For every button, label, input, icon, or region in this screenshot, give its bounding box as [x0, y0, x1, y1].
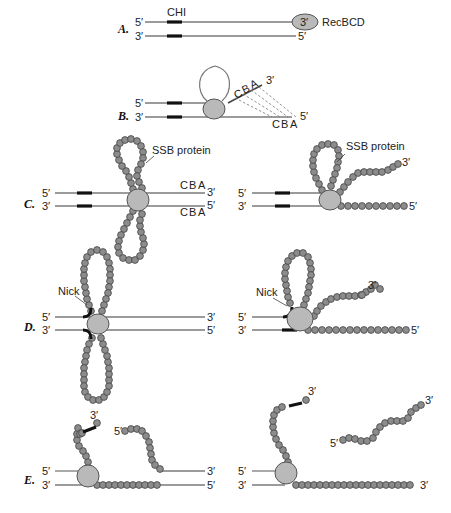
strand-end-label: 5′	[411, 324, 419, 336]
panel-d-left: D. 5′ 3′ Nick 3′ 5′	[23, 247, 215, 404]
strand-end-label: 3′	[135, 111, 143, 123]
strand-end-label: 5′	[300, 110, 308, 122]
ssb-coated-bottom	[94, 482, 161, 489]
recbcd-diagram: A. 5′ 3′ CHI 3′ RecBCD 5′ B. 5′ 3′ C B A	[0, 0, 451, 513]
strand-end-label: 5′	[42, 465, 50, 477]
base-label: B	[189, 206, 196, 218]
recbcd-enzyme	[275, 462, 297, 484]
strand-end-label: 5′	[238, 465, 246, 477]
base-label: C	[180, 206, 188, 218]
recbcd-enzyme	[203, 99, 225, 119]
strand-end-label: 3′	[402, 156, 410, 168]
ssdna-loop	[200, 66, 230, 101]
ssb-coated-fragment	[340, 402, 425, 445]
ssb-coated-loop-bottom	[115, 208, 148, 264]
nick-pointer-line	[273, 298, 287, 306]
strand-end-label: 3′	[42, 200, 50, 212]
strand-end-label: 3′	[135, 30, 143, 42]
panel-label-b: B.	[117, 109, 129, 123]
panel-label-a: A.	[117, 22, 129, 36]
strand-end-label: 3′	[207, 311, 215, 323]
strand-end-label: 3′	[300, 16, 308, 28]
chi-segment	[83, 427, 96, 432]
panel-d-right: 5′ 3′ 3′ 5′ Nick	[238, 250, 419, 336]
base-label: C	[272, 118, 280, 130]
ssb-label: SSB protein	[346, 140, 405, 152]
panel-label-d: D.	[23, 320, 36, 334]
base-label: A	[198, 206, 206, 218]
strand-end-label: 5′	[114, 425, 122, 437]
ssb-coated-5-tail	[305, 327, 410, 334]
strand-end-label: 3′	[238, 479, 246, 491]
base-label: A	[290, 118, 298, 130]
ssb-coated-5-strand	[122, 426, 164, 473]
ssb-coated-3-invading-strand	[74, 420, 101, 466]
recbcd-label: RecBCD	[322, 16, 365, 28]
strand-end-label: 3′	[308, 385, 316, 397]
strand-end-label: 3′	[238, 200, 246, 212]
strand-end-label: 5′	[409, 200, 417, 212]
strand-end-label: 3′	[42, 324, 50, 336]
nick-label: Nick	[58, 285, 80, 297]
ssb-coated-bottom	[293, 482, 414, 489]
strand-end-label: 3′	[425, 394, 433, 406]
strand-end-label: 3′	[238, 324, 246, 336]
panel-c-left: C. 5′ 3′ SSB protein C B A 3′ C B A 5′	[24, 136, 215, 264]
strand-end-label: 5′	[42, 187, 50, 199]
nick-label: Nick	[256, 286, 278, 298]
base-label: B	[281, 118, 288, 130]
base-label: C	[180, 179, 188, 191]
ssb-coated-loop	[310, 141, 343, 194]
ssb-coated-5-tail	[338, 203, 408, 210]
strand-end-label: 3′	[207, 465, 215, 477]
strand-end-label: 5′	[238, 187, 246, 199]
ssb-coated-loop	[282, 250, 315, 309]
strand-end-label: 5′	[42, 311, 50, 323]
ssb-label: SSB protein	[152, 144, 211, 156]
recbcd-enzyme	[319, 190, 341, 210]
strand-end-label: 5′	[135, 16, 143, 28]
chi-segment	[289, 403, 302, 406]
panel-b: B. 5′ 3′ C B A 3′ C B A 5′	[117, 66, 308, 130]
strand-end-label: 3′	[90, 409, 98, 421]
strand-end-label: 3′	[42, 479, 50, 491]
strand-end-label: 3′	[266, 74, 274, 86]
strand-end-label: 5′	[238, 311, 246, 323]
strand-end-label: 5′	[207, 199, 215, 211]
panel-c-right: 5′ 3′ 3′ 5′ SSB protein	[238, 140, 417, 212]
recbcd-enzyme	[87, 314, 109, 334]
ssb-pointer-line	[146, 156, 154, 163]
ssb-coated-loop-bottom	[81, 335, 113, 404]
strand-end-label: 5′	[207, 479, 215, 491]
panel-a: A. 5′ 3′ CHI 3′ RecBCD 5′	[117, 6, 365, 42]
base-label: A	[248, 77, 260, 91]
strand-end-label: 5′	[298, 30, 306, 42]
panel-label-c: C.	[24, 197, 35, 211]
base-label: A	[198, 179, 206, 191]
nick-top	[83, 308, 91, 317]
recbcd-enzyme	[77, 465, 99, 487]
strand-end-label: 5′	[330, 437, 338, 449]
strand-end-label: 3′	[207, 186, 215, 198]
recbcd-enzyme	[287, 307, 313, 331]
strand-end-label: 3′	[368, 279, 376, 291]
base-label: B	[189, 179, 196, 191]
strand-end-label: 3′	[420, 479, 428, 491]
panel-label-e: E.	[23, 473, 35, 487]
panel-e-right: 5′ 3′ 3′ 5′ 3′ 3′	[238, 385, 433, 491]
panel-e-left: E. 5′ 3′ 3′ 5′ 3′ 5′	[23, 409, 215, 491]
chi-label: CHI	[167, 6, 186, 18]
recbcd-enzyme	[127, 189, 149, 211]
strand-end-label: 5′	[207, 324, 215, 336]
ssb-coated-loop-top	[114, 136, 147, 193]
ssb-coated-3-tail	[337, 161, 402, 196]
strand-end-label: 5′	[135, 97, 143, 109]
